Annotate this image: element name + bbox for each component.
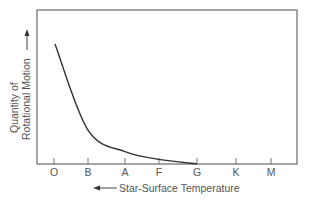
x-axis-label: Star-Surface Temperature [93,182,240,194]
plot-frame [37,10,297,164]
data-curve [55,44,197,164]
x-tick-label: G [193,166,201,178]
y-axis-label-line-2: Rotational Motion [20,58,32,140]
left-arrow-icon [93,186,100,191]
x-tick-label: F [156,166,162,178]
x-tick-label: A [121,166,128,178]
y-axis-label-line-1: Quantity of [8,82,20,133]
y-axis-label: Quantity of Rotational Motion [8,29,32,140]
x-tick-label: O [50,166,58,178]
x-tick-label: M [267,166,276,178]
x-axis-tick-labels: OBAFGKM [50,166,275,178]
x-tick-label: B [84,166,91,178]
chart: OBAFGKM Quantity of Rotational Motion St… [0,0,310,205]
x-tick-label: K [232,166,239,178]
x-axis-ticks [54,158,271,164]
x-axis-label-text: Star-Surface Temperature [119,182,240,194]
up-arrow-icon [25,29,30,36]
